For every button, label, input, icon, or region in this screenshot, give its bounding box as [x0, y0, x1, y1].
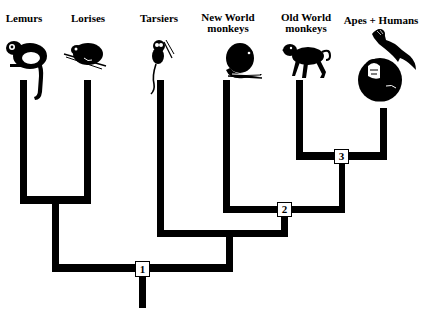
- branch-haplorhine-stem: [226, 230, 233, 272]
- node-3-marker: 3: [334, 149, 349, 164]
- branch-tarsiers: [157, 80, 164, 237]
- label-lorises: Lorises: [68, 13, 108, 24]
- node-2-marker: 2: [277, 202, 292, 217]
- branch-haplorhine-crossbar: [157, 230, 288, 237]
- old-world-monkey-icon: [278, 38, 336, 84]
- label-old-world-monkeys: Old World monkeys: [278, 12, 334, 34]
- branch-strepsirrhine-stem: [52, 196, 59, 272]
- label-new-world-monkeys: New World monkeys: [200, 12, 256, 34]
- ape-human-icon: [350, 26, 424, 108]
- branch-new-world-monkeys: [223, 80, 230, 213]
- branch-lemurs: [20, 80, 27, 204]
- new-world-monkey-icon: [220, 40, 266, 84]
- label-lemurs: Lemurs: [4, 13, 44, 24]
- label-tarsiers: Tarsiers: [136, 13, 182, 24]
- loris-icon: [62, 36, 108, 70]
- label-new-world-line2: monkeys: [200, 23, 256, 34]
- label-old-world-line2: monkeys: [278, 23, 334, 34]
- branch-lorises: [84, 80, 91, 204]
- lemur-icon: [4, 34, 50, 102]
- node-1-marker: 1: [135, 261, 150, 277]
- label-apes-humans: Apes + Humans: [340, 15, 422, 26]
- branch-old-world-monkeys: [296, 80, 303, 160]
